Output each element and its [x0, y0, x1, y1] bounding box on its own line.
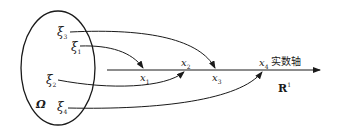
outcome-label-xi2: ξ2 [46, 74, 56, 88]
point-label-x4: x4 [259, 58, 268, 70]
mapping-arrow-xi2-x2 [58, 72, 184, 86]
outcome-label-xi1: ξ1 [71, 41, 81, 55]
sample-space-label: Ω [36, 99, 46, 110]
outcome-label-xi4: ξ4 [57, 101, 67, 115]
point-label-x1: x1 [140, 73, 149, 85]
mapping-arrow-xi4-x4 [68, 72, 262, 108]
outcome-label-xi3: ξ3 [57, 26, 67, 40]
mapping-arrow-xi1-x1 [80, 46, 143, 68]
point-label-x3: x3 [212, 73, 221, 85]
point-label-x2: x2 [181, 58, 190, 70]
mapping-arrow-xi3-x3 [70, 31, 215, 68]
mapping-diagram [0, 0, 338, 138]
real-space-label: R1 [278, 82, 291, 94]
axis-name-label: 实数轴 [271, 57, 301, 67]
